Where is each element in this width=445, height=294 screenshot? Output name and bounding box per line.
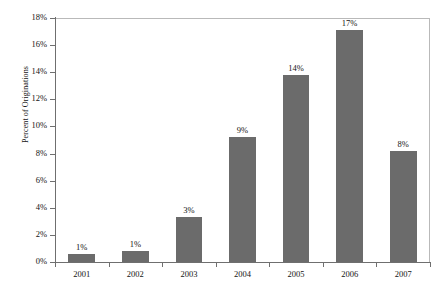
bar-chart: Percent of Originations 0%2%4%6%8%10%12%… (0, 0, 445, 294)
x-tick-mark (323, 262, 324, 267)
y-tick-label: 10% (31, 120, 47, 130)
bar-2006 (336, 18, 363, 262)
y-tick-mark (50, 181, 55, 182)
x-tick-mark (269, 262, 270, 267)
bar-rect (283, 75, 310, 262)
y-tick-label: 6% (36, 175, 47, 185)
bar-rect (68, 254, 95, 262)
x-tick-mark (55, 262, 56, 267)
bar-rect (122, 251, 149, 262)
x-label-2003: 2003 (162, 269, 216, 280)
y-tick-mark (50, 126, 55, 127)
y-tick-label: 16% (31, 39, 47, 49)
bar-value-label-2001: 1% (55, 242, 109, 252)
x-label-2007: 2007 (376, 269, 430, 280)
y-tick-label: 4% (36, 202, 47, 212)
bar-2004 (229, 18, 256, 262)
bar-2001 (68, 18, 95, 262)
x-axis-line (54, 262, 431, 263)
x-tick-mark (109, 262, 110, 267)
y-tick-label: 12% (31, 93, 47, 103)
x-tick-mark (162, 262, 163, 267)
bar-rect (176, 217, 203, 262)
x-label-2005: 2005 (269, 269, 323, 280)
y-tick-mark (50, 235, 55, 236)
y-tick-label: 2% (36, 229, 47, 239)
bar-rect (336, 30, 363, 262)
x-label-2004: 2004 (216, 269, 270, 280)
bar-value-label-2005: 14% (269, 63, 323, 73)
bar-value-label-2002: 1% (109, 239, 163, 249)
x-tick-mark (430, 262, 431, 267)
bar-value-label-2007: 8% (376, 139, 430, 149)
y-tick-mark (50, 72, 55, 73)
bar-2005 (283, 18, 310, 262)
x-label-2002: 2002 (109, 269, 163, 280)
y-tick-mark (50, 208, 55, 209)
y-axis-line (55, 17, 56, 263)
bar-2002 (122, 18, 149, 262)
y-tick-label: 0% (36, 256, 47, 266)
y-tick-label: 8% (36, 148, 47, 158)
x-label-2006: 2006 (323, 269, 377, 280)
bar-rect (229, 137, 256, 262)
y-tick-mark (50, 99, 55, 100)
y-tick-mark (50, 18, 55, 19)
x-label-2001: 2001 (55, 269, 109, 280)
y-axis-title: Percent of Originations (21, 25, 30, 185)
bar-value-label-2006: 17% (323, 18, 377, 28)
bar-value-label-2004: 9% (216, 125, 270, 135)
y-tick-mark (50, 154, 55, 155)
y-tick-mark (50, 45, 55, 46)
x-tick-mark (216, 262, 217, 267)
bar-value-label-2003: 3% (162, 205, 216, 215)
y-tick-label: 14% (31, 66, 47, 76)
bar-rect (390, 151, 417, 262)
bar-2003 (176, 18, 203, 262)
x-tick-mark (376, 262, 377, 267)
y-tick-label: 18% (31, 12, 47, 22)
